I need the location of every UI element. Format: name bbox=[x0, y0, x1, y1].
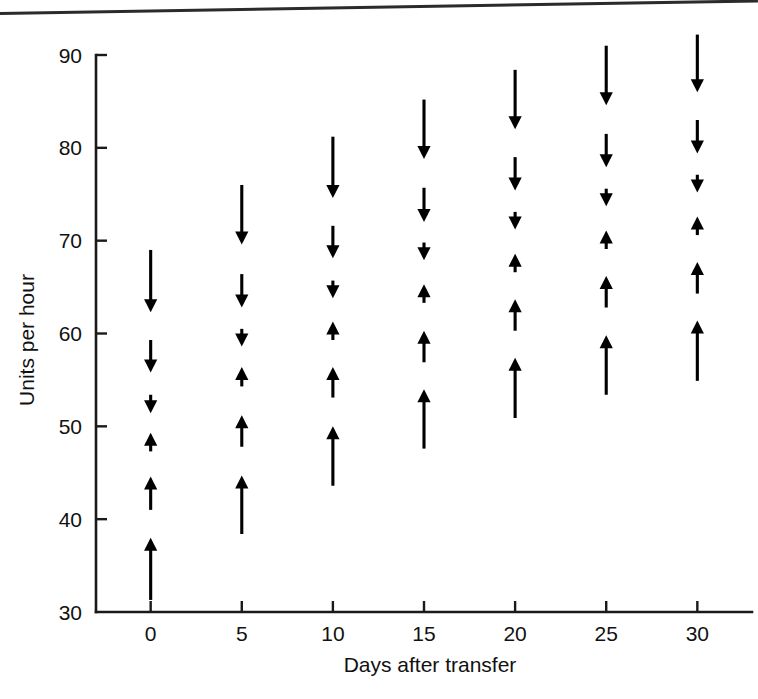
arrow-head bbox=[235, 415, 248, 428]
y-tick-label: 50 bbox=[59, 415, 82, 438]
x-tick-label: 30 bbox=[686, 622, 709, 645]
x-axis-title: Days after transfer bbox=[344, 653, 517, 676]
y-tick-label: 70 bbox=[59, 229, 82, 252]
arrow-head bbox=[600, 276, 613, 289]
arrow-head bbox=[509, 116, 522, 129]
arrow-head bbox=[509, 254, 522, 267]
y-tick-label: 60 bbox=[59, 322, 82, 345]
arrow-head bbox=[417, 284, 430, 297]
arrow-head bbox=[691, 262, 704, 275]
data-arrows-layer bbox=[144, 35, 704, 600]
arrow-head bbox=[509, 178, 522, 191]
arrow-group-day-10 bbox=[326, 137, 339, 486]
arrow-head bbox=[600, 154, 613, 167]
x-tick-label: 5 bbox=[236, 622, 248, 645]
x-tick-label: 15 bbox=[412, 622, 435, 645]
arrow-head bbox=[144, 299, 157, 312]
y-axis-ticks bbox=[96, 55, 107, 519]
x-axis-ticks bbox=[151, 601, 698, 612]
y-axis-tick-labels: 30405060708090 bbox=[59, 44, 82, 624]
x-tick-label: 0 bbox=[145, 622, 157, 645]
arrow-head bbox=[600, 230, 613, 243]
arrow-head bbox=[509, 299, 522, 312]
x-axis-tick-labels: 051015202530 bbox=[145, 622, 709, 645]
arrow-group-day-25 bbox=[600, 46, 613, 395]
arrow-head bbox=[144, 359, 157, 372]
arrow-head bbox=[691, 140, 704, 153]
arrow-group-day-5 bbox=[235, 185, 248, 534]
arrow-head bbox=[600, 335, 613, 348]
arrow-head bbox=[417, 146, 430, 159]
arrow-head bbox=[326, 367, 339, 380]
arrow-head bbox=[326, 245, 339, 258]
y-tick-label: 40 bbox=[59, 508, 82, 531]
arrow-head bbox=[235, 295, 248, 308]
y-tick-label: 90 bbox=[59, 44, 82, 67]
arrow-head bbox=[326, 426, 339, 439]
arrow-head bbox=[235, 367, 248, 380]
arrow-group-day-15 bbox=[417, 100, 430, 449]
arrow-head bbox=[235, 231, 248, 244]
arrow-head bbox=[509, 217, 522, 230]
arrow-head bbox=[691, 321, 704, 334]
arrow-head bbox=[417, 209, 430, 222]
figure-container: 30405060708090 051015202530 Days after t… bbox=[0, 0, 758, 699]
arrow-head bbox=[417, 389, 430, 402]
arrow-group-day-0 bbox=[144, 250, 157, 600]
arrow-head bbox=[417, 247, 430, 260]
arrow-group-day-20 bbox=[509, 70, 522, 418]
arrow-head bbox=[326, 285, 339, 298]
arrow-head bbox=[417, 331, 430, 344]
arrow-head bbox=[144, 400, 157, 413]
arrow-head bbox=[509, 358, 522, 371]
arrow-head bbox=[600, 92, 613, 105]
y-axis-title: Units per hour bbox=[15, 274, 38, 406]
arrow-range-chart: 30405060708090 051015202530 Days after t… bbox=[0, 0, 758, 699]
arrow-head bbox=[691, 179, 704, 192]
arrow-head bbox=[691, 79, 704, 92]
arrow-head bbox=[691, 217, 704, 230]
arrow-head bbox=[326, 321, 339, 334]
x-tick-label: 10 bbox=[321, 622, 344, 645]
page-sheet: 30405060708090 051015202530 Days after t… bbox=[0, 0, 758, 699]
arrow-head bbox=[235, 476, 248, 489]
arrow-head bbox=[144, 476, 157, 489]
x-tick-label: 20 bbox=[503, 622, 526, 645]
arrow-head bbox=[235, 333, 248, 346]
arrow-head bbox=[144, 538, 157, 551]
arrow-group-day-30 bbox=[691, 35, 704, 381]
y-tick-label: 80 bbox=[59, 136, 82, 159]
y-tick-label: 30 bbox=[59, 601, 82, 624]
arrow-head bbox=[326, 185, 339, 198]
arrow-head bbox=[144, 433, 157, 446]
arrow-head bbox=[600, 193, 613, 206]
x-tick-label: 25 bbox=[595, 622, 618, 645]
